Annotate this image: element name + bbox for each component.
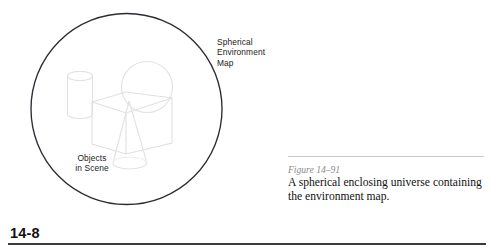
figure-number-label: Figure 14–91	[288, 164, 484, 175]
cube-object	[92, 92, 172, 154]
figure-illustration	[0, 0, 300, 220]
callout-spherical-environment-map: Spherical Environment Map	[217, 37, 265, 68]
figure-caption-block: Figure 14–91 A spherical enclosing unive…	[288, 156, 484, 203]
figure-caption-text: A spherical enclosing universe containin…	[288, 176, 484, 203]
callout-objects-in-scene: Objects in Scene	[62, 153, 122, 174]
sphere-object	[122, 62, 173, 113]
footer-divider-rule	[8, 243, 486, 245]
caption-divider-rule	[288, 156, 484, 157]
page-number: 14-8	[10, 225, 40, 241]
cylinder-object	[68, 71, 93, 118]
figure-page: Spherical Environment Map Objects in Sce…	[0, 0, 490, 247]
